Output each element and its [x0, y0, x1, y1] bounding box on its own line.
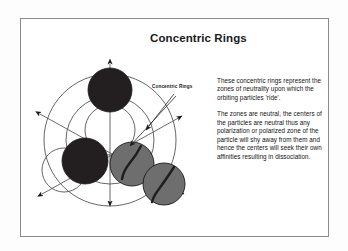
page-title: Concentric Rings	[150, 32, 320, 44]
body-text-block: These concentric rings represent the zon…	[217, 77, 327, 169]
concentric-rings-diagram	[24, 46, 204, 221]
callout-leader-group	[130, 94, 176, 146]
body-paragraph-2: The zones are neutral, the centers of th…	[217, 110, 327, 161]
sphere-top-dark	[88, 68, 132, 112]
slide-page: Concentric Rings	[0, 0, 348, 251]
leader-line-lower	[130, 96, 176, 146]
sphere-left-dark	[62, 138, 108, 184]
body-paragraph-1: These concentric rings represent the zon…	[217, 77, 327, 102]
callout-label: Concentric Rings	[152, 84, 192, 89]
